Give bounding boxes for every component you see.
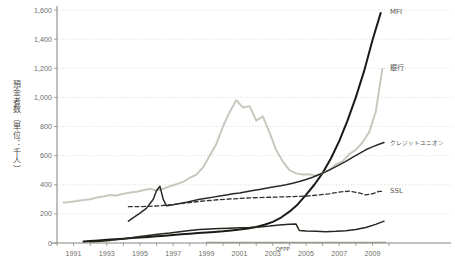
y-tick-label: 600 [40,151,52,160]
x-tick-label: 2001 [232,249,248,258]
y-axis-ticks: 02004006008001,0001,2001,4001,600 [34,6,57,248]
x-tick-label: 1999 [198,249,214,258]
series-group [64,13,386,243]
series-label-MFI: MFI [390,8,402,16]
line-chart: 02004006008001,0001,2001,4001,6001991199… [0,0,455,268]
x-tick-label: 2007 [331,249,347,258]
y-tick-label: 1,600 [34,6,52,15]
series-label-SSL: SSL [390,187,403,195]
y-tick-label: 400 [40,180,52,189]
x-axis-ticks: 1991199319951997199920012003200520072009 [57,243,389,258]
x-tick-label: 2009 [364,249,380,258]
x-tick-label: 1995 [132,249,148,258]
x-tick-label: 1997 [165,249,181,258]
series-label-クレジットユニオン: クレジットユニオン [390,140,444,146]
gridlines [57,10,451,243]
x-tick-label: 2005 [298,249,314,258]
series-line-SSL [128,191,384,206]
y-tick-label: 1,400 [34,35,52,44]
series-line-MFI [84,13,381,242]
series-line-銀行 [64,69,383,203]
chart-container: 02004006008001,0001,2001,4001,6001991199… [0,0,455,268]
x-tick-label: 1991 [66,249,82,258]
y-tick-label: 1,200 [34,64,52,73]
y-tick-label: 200 [40,209,52,218]
series-label-QFPP: QFPP [276,246,291,252]
x-tick-label: 1993 [99,249,115,258]
y-tick-label: 0 [48,239,52,248]
y-axis-title: 預金者数（単位：千人） [12,80,21,174]
series-labels: MFI銀行クレジットユニオンSSLQFPP [276,8,444,253]
y-tick-label: 1,000 [34,93,52,102]
series-label-銀行: 銀行 [390,63,404,72]
series-line-クレジットユニオン [128,143,384,222]
y-tick-label: 800 [40,122,52,131]
